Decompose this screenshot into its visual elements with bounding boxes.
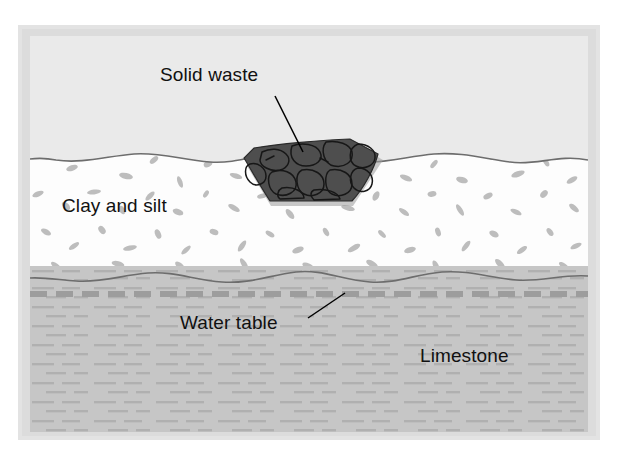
- label-water-table: Water table: [180, 312, 278, 334]
- label-solid-waste: Solid waste: [160, 64, 258, 86]
- label-limestone: Limestone: [420, 345, 509, 367]
- solid-waste-mass: [30, 36, 588, 432]
- cross-section-scene: [30, 36, 588, 432]
- label-clay-and-silt: Clay and silt: [62, 195, 167, 217]
- landfill-cross-section-figure: Solid waste Clay and silt Water table Li…: [0, 0, 618, 459]
